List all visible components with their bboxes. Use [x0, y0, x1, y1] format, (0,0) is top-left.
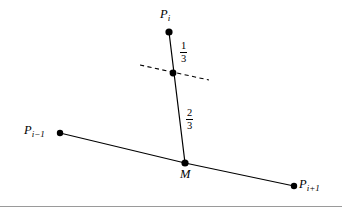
- geometry-figure: Pi Pi−1 Pi+1 M 1 3 2 3: [0, 0, 342, 215]
- label-p-prev-subscript: i−1: [32, 129, 45, 139]
- label-p-i-base: P: [160, 7, 168, 21]
- label-midpoint-m: M: [180, 168, 190, 181]
- label-p-i-subscript: i: [168, 13, 171, 23]
- figure-canvas: [0, 0, 342, 215]
- fraction-lower-denominator: 3: [186, 120, 193, 131]
- segment-chord-left: [60, 133, 185, 163]
- fraction-upper-denominator: 3: [180, 53, 187, 64]
- label-p-next-base: P: [299, 177, 307, 191]
- label-p-i-minus-1: Pi−1: [24, 124, 45, 139]
- fraction-lower-numerator: 2: [186, 107, 193, 118]
- label-p-next-subscript: i+1: [307, 183, 320, 193]
- point-p-i-minus-1: [57, 130, 63, 136]
- bottom-divider-rule: [0, 206, 342, 207]
- fraction-two-thirds: 2 3: [186, 107, 193, 131]
- point-p-i: [165, 28, 172, 35]
- segment-chord-right: [185, 163, 294, 186]
- label-p-i: Pi: [160, 8, 170, 23]
- fraction-one-third: 1 3: [180, 40, 187, 64]
- label-p-i-plus-1: Pi+1: [299, 178, 320, 193]
- point-m: [181, 159, 188, 166]
- point-tangent-intersection: [170, 70, 177, 77]
- point-p-i-plus-1: [291, 183, 297, 189]
- fraction-upper-numerator: 1: [180, 40, 187, 51]
- label-p-prev-base: P: [24, 123, 32, 137]
